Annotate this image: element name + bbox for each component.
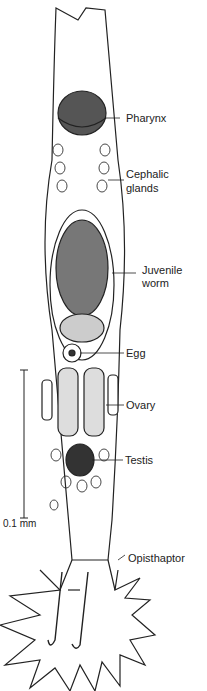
label-egg: Egg <box>126 347 146 359</box>
label-cephalic-glands-line1: Cephalic <box>126 168 169 180</box>
anchor-left <box>48 572 62 645</box>
label-scale-bar: 0.1 mm <box>3 518 36 530</box>
label-ovary: Ovary <box>126 399 155 411</box>
anchor-right <box>72 572 88 648</box>
worm-illustration <box>0 0 207 691</box>
cephalic-glands <box>53 144 110 192</box>
label-juvenile-worm-line1: Juvenile <box>142 264 182 276</box>
label-juvenile-worm-line2: worm <box>142 277 169 289</box>
label-cephalic-glands-line2: glands <box>126 182 158 194</box>
label-pharynx: Pharynx <box>126 112 166 124</box>
scale-bar <box>20 370 28 518</box>
opisthaptor-shape <box>0 570 155 691</box>
testis-shape <box>66 444 94 476</box>
pharynx-shape <box>58 91 106 135</box>
ovary-shape <box>42 368 118 436</box>
label-testis: Testis <box>125 454 153 466</box>
label-opisthaptor: Opisthaptor <box>128 552 185 564</box>
juvenile-worm-shape <box>56 220 108 316</box>
